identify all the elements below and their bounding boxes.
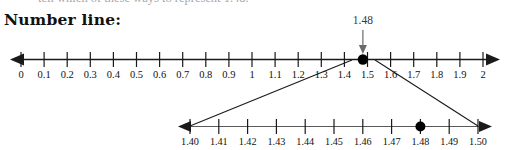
magnified-number-line: 1.401.411.421.431.441.451.461.471.481.49… bbox=[178, 119, 492, 147]
tick-label: 1.5 bbox=[361, 69, 374, 80]
magnified-axis-right-arrow-icon bbox=[479, 121, 492, 132]
down-arrow-pointer-icon bbox=[359, 45, 367, 54]
tick-label: 1.8 bbox=[430, 69, 443, 80]
magnified-axis-left-arrow-icon bbox=[178, 121, 191, 132]
tick-label: 1 bbox=[249, 69, 254, 80]
tick-label: 1.43 bbox=[267, 136, 285, 147]
main-axis-left-arrow-icon bbox=[10, 54, 24, 66]
tick-label: 2 bbox=[480, 69, 485, 80]
tick-label: 1.41 bbox=[210, 136, 228, 147]
magnified-axis-tick-labels: 1.401.411.421.431.441.451.461.471.481.49… bbox=[181, 136, 487, 147]
tick-label: 1.46 bbox=[354, 136, 372, 147]
callout-label: 1.48 bbox=[353, 14, 373, 26]
plotted-point-marker bbox=[415, 122, 425, 132]
tick-label: 1.42 bbox=[239, 136, 257, 147]
tick-label: 1.4 bbox=[338, 69, 352, 80]
tick-label: 1.2 bbox=[292, 69, 305, 80]
number-line-diagram: 1.48 00.10.20.30.40.50.60.70.80.911.11.2… bbox=[0, 0, 509, 150]
tick-label: 0.1 bbox=[38, 69, 51, 80]
tick-label: 1.6 bbox=[384, 69, 397, 80]
tick-label: 1.1 bbox=[269, 69, 282, 80]
main-axis-ticks bbox=[21, 52, 483, 67]
tick-label: 1.44 bbox=[296, 136, 314, 147]
tick-label: 0.2 bbox=[61, 69, 74, 80]
tick-label: 1.47 bbox=[383, 136, 401, 147]
tick-label: 0.4 bbox=[107, 69, 121, 80]
tick-label: 0.5 bbox=[130, 69, 143, 80]
tick-label: 0.6 bbox=[153, 69, 166, 80]
tick-label: 1.49 bbox=[440, 136, 458, 147]
number-line-figure: tell which of these ways to represent 1.… bbox=[0, 0, 509, 150]
main-axis-tick-labels: 00.10.20.30.40.50.60.70.80.911.11.21.31.… bbox=[18, 69, 485, 80]
plotted-point-marker bbox=[358, 54, 368, 64]
tick-label: 1.48 bbox=[411, 136, 429, 147]
main-axis-right-arrow-icon bbox=[486, 54, 500, 66]
tick-label: 0.7 bbox=[176, 69, 189, 80]
magnified-axis-points bbox=[415, 122, 425, 132]
tick-label: 1.40 bbox=[181, 136, 199, 147]
tick-label: 0.3 bbox=[84, 69, 97, 80]
tick-label: 1.50 bbox=[469, 136, 487, 147]
tick-label: 1.9 bbox=[453, 69, 466, 80]
tick-label: 1.45 bbox=[325, 136, 343, 147]
tick-label: 0 bbox=[18, 69, 23, 80]
tick-label: 1.7 bbox=[407, 69, 420, 80]
callout-group: 1.48 bbox=[353, 14, 373, 54]
tick-label: 0.8 bbox=[199, 69, 212, 80]
tick-label: 0.9 bbox=[222, 69, 235, 80]
main-number-line: 00.10.20.30.40.50.60.70.80.911.11.21.31.… bbox=[10, 52, 500, 80]
tick-label: 1.3 bbox=[315, 69, 328, 80]
main-axis-points bbox=[358, 54, 368, 64]
